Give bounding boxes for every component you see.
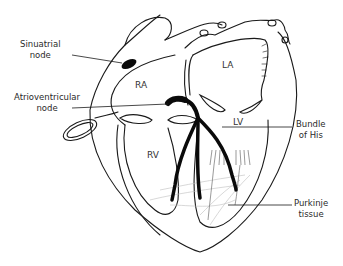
heart-outline <box>90 15 297 252</box>
bundle-of-his <box>185 100 198 118</box>
chamber-ra: RA <box>135 80 147 90</box>
label-sinuatrial-node: Sinuatrial node <box>20 39 61 61</box>
label-purkinje-tissue: Purkinje tissue <box>294 198 328 220</box>
av-node <box>168 99 185 103</box>
av-line1: Atrioventricular <box>14 92 80 103</box>
purkinje-line1: Purkinje <box>294 198 328 209</box>
bundle-line2: of His <box>296 130 326 141</box>
chamber-la: LA <box>222 60 233 70</box>
sinuatrial-line1: Sinuatrial <box>20 39 61 50</box>
bundle-line1: Bundle <box>296 119 326 130</box>
purkinje-line2: tissue <box>294 209 328 220</box>
chamber-rv: RV <box>147 150 159 160</box>
label-av-node: Atrioventricular node <box>14 92 80 114</box>
av-line2: node <box>14 103 80 114</box>
chamber-lv: LV <box>233 117 243 127</box>
label-bundle-of-his: Bundle of His <box>296 119 326 141</box>
sinuatrial-line2: node <box>20 50 61 61</box>
